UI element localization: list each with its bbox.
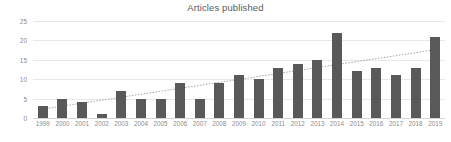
bar-slot xyxy=(288,21,308,119)
bar[interactable] xyxy=(411,68,421,118)
x-axis-tick-label: 2001 xyxy=(75,120,89,127)
x-axis-tick-label: 2006 xyxy=(173,120,187,127)
y-axis-tick-label: 15 xyxy=(20,56,27,63)
y-axis-tick-label: 0 xyxy=(23,115,27,122)
bar-slot xyxy=(425,21,445,119)
bar-slot xyxy=(151,21,171,119)
bar[interactable] xyxy=(391,75,401,118)
bar[interactable] xyxy=(77,102,87,118)
bar-slot xyxy=(190,21,210,119)
bar[interactable] xyxy=(175,83,185,118)
bar-slot xyxy=(386,21,406,119)
bar[interactable] xyxy=(57,99,67,118)
bar-slot xyxy=(210,21,230,119)
x-axis-tick-label: 2008 xyxy=(212,120,226,127)
bar[interactable] xyxy=(352,71,362,118)
bar-slot xyxy=(33,21,53,119)
x-axis-tick-label: 2004 xyxy=(134,120,148,127)
bar-slot xyxy=(249,21,269,119)
bars-layer xyxy=(33,21,445,119)
bar[interactable] xyxy=(116,91,126,118)
bar-slot xyxy=(229,21,249,119)
bar[interactable] xyxy=(214,83,224,118)
chart-container: Articles published 0510152025 1999200020… xyxy=(0,0,451,142)
bar-slot xyxy=(53,21,73,119)
bar[interactable] xyxy=(195,99,205,118)
bar-slot xyxy=(367,21,387,119)
x-axis-tick-label: 2019 xyxy=(428,120,442,127)
x-axis-tick-label: 2011 xyxy=(271,120,285,127)
x-axis-tick-label: 2017 xyxy=(389,120,403,127)
bar[interactable] xyxy=(312,60,322,118)
bar[interactable] xyxy=(136,99,146,118)
bar[interactable] xyxy=(97,114,107,118)
bar[interactable] xyxy=(38,106,48,118)
x-axis-tick-label: 2005 xyxy=(154,120,168,127)
y-axis-tick-label: 10 xyxy=(20,76,27,83)
bar[interactable] xyxy=(273,68,283,118)
y-axis-tick-label: 20 xyxy=(20,37,27,44)
x-axis-tick-label: 2018 xyxy=(409,120,423,127)
chart-title: Articles published xyxy=(0,2,451,13)
bar[interactable] xyxy=(430,37,440,118)
bar[interactable] xyxy=(234,75,244,118)
y-axis-tick-label: 25 xyxy=(20,18,27,25)
bar[interactable] xyxy=(332,33,342,118)
bar-slot xyxy=(268,21,288,119)
x-axis-tick-label: 2012 xyxy=(291,120,305,127)
x-axis-tick-label: 2003 xyxy=(114,120,128,127)
bar[interactable] xyxy=(156,99,166,118)
bar-slot xyxy=(111,21,131,119)
x-axis-tick-label: 2015 xyxy=(350,120,364,127)
bar-slot xyxy=(72,21,92,119)
bar-slot xyxy=(92,21,112,119)
y-axis-tick-label: 5 xyxy=(23,95,27,102)
bar-slot xyxy=(131,21,151,119)
x-axis-tick-label: 2002 xyxy=(95,120,109,127)
x-axis-tick-label: 2013 xyxy=(310,120,324,127)
x-axis-tick-label: 2009 xyxy=(232,120,246,127)
bar-slot xyxy=(406,21,426,119)
bar-slot xyxy=(308,21,328,119)
y-axis-tick-labels: 0510152025 xyxy=(0,21,30,118)
x-axis-tick-label: 2010 xyxy=(252,120,266,127)
bar-slot xyxy=(170,21,190,119)
bar[interactable] xyxy=(371,68,381,118)
x-axis-tick-labels: 1999200020012002200320042005200620072008… xyxy=(33,120,445,140)
bar-slot xyxy=(347,21,367,119)
x-axis-tick-label: 1999 xyxy=(36,120,50,127)
x-axis-tick-label: 2016 xyxy=(369,120,383,127)
x-axis-tick-label: 2000 xyxy=(55,120,69,127)
bar[interactable] xyxy=(293,64,303,118)
bar[interactable] xyxy=(254,79,264,118)
x-axis-tick-label: 2014 xyxy=(330,120,344,127)
x-axis-tick-label: 2007 xyxy=(193,120,207,127)
bar-slot xyxy=(327,21,347,119)
